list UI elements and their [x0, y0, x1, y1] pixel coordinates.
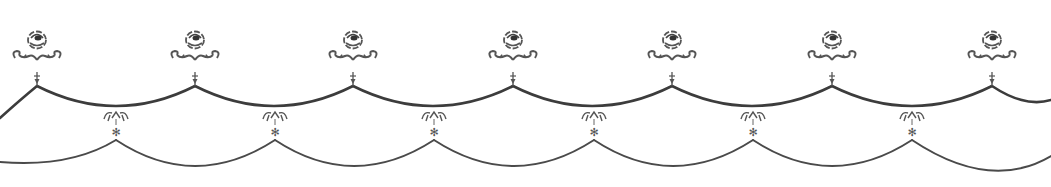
- drop-ornaments: [34, 72, 995, 86]
- scroll-ornaments: [13, 51, 1015, 60]
- rose-ornaments: [28, 32, 1001, 49]
- upper-swags: [0, 86, 1051, 118]
- tassel-ornaments: [104, 112, 924, 139]
- lower-swags: [0, 140, 1051, 171]
- ornamental-border: ✻: [0, 0, 1051, 187]
